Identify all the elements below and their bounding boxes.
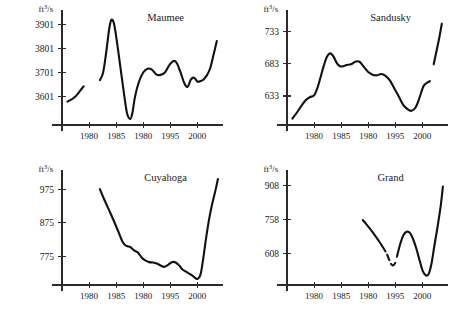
y-tick-label-grand: 908 [265, 181, 280, 191]
panel-title-cuyahoga: Cuyahoga [144, 172, 187, 183]
y-axis-unit-label-grand: ft3/s [264, 163, 279, 174]
x-tick-label-sandusky: 1995 [386, 131, 405, 141]
y-tick-label-maumee: 3801 [35, 44, 54, 54]
chart-svg-sandusky: 63368373319801985198019952000ft3/sSandus… [225, 0, 450, 159]
series-line-maumee [67, 86, 83, 101]
x-tick-label-cuyahoga: 1995 [161, 291, 180, 301]
y-axis-unit-label-cuyahoga: ft3/s [39, 163, 54, 174]
x-tick-label-sandusky: 1980 [359, 131, 378, 141]
x-tick-label-grand: 1995 [386, 291, 405, 301]
y-tick-label-maumee: 3701 [35, 68, 54, 78]
x-tick-label-maumee: 1980 [80, 131, 99, 141]
x-tick-label-maumee: 2000 [188, 131, 207, 141]
x-tick-label-cuyahoga: 1985 [107, 291, 126, 301]
series-line-grand [363, 220, 386, 251]
y-axis-unit-label-sandusky: ft3/s [264, 3, 279, 14]
panel-title-maumee: Maumee [147, 12, 184, 23]
chart-svg-cuyahoga: 77587597519801985198019952000ft3/sCuyaho… [0, 160, 225, 319]
y-tick-label-sandusky: 633 [265, 91, 280, 101]
x-tick-label-maumee: 1985 [107, 131, 126, 141]
chart-svg-maumee: 360137013801390119801985198019952000ft3/… [0, 0, 225, 159]
series-line-grand [397, 186, 443, 275]
chart-panel-grand: 60875890819801985198019952000ft3/sGrand [225, 160, 450, 319]
y-tick-label-maumee: 3601 [35, 92, 54, 102]
x-tick-label-sandusky: 2000 [413, 131, 432, 141]
series-line-cuyahoga [100, 179, 218, 279]
y-tick-label-cuyahoga: 775 [40, 252, 55, 262]
chart-panel-maumee: 360137013801390119801985198019952000ft3/… [0, 0, 225, 159]
x-tick-label-grand: 2000 [413, 291, 432, 301]
panel-title-grand: Grand [377, 172, 404, 183]
x-tick-label-grand: 1985 [332, 291, 351, 301]
y-tick-label-cuyahoga: 875 [40, 218, 55, 228]
y-axis-unit-label-maumee: ft3/s [39, 3, 54, 14]
series-line-grand [391, 263, 395, 266]
series-line-maumee [100, 20, 217, 119]
x-tick-label-sandusky: 1985 [332, 131, 351, 141]
series-line-sandusky [434, 24, 442, 65]
y-tick-label-maumee: 3901 [35, 20, 54, 30]
chart-svg-grand: 60875890819801985198019952000ft3/sGrand [225, 160, 450, 319]
x-tick-label-cuyahoga: 2000 [188, 291, 207, 301]
panel-title-sandusky: Sandusky [370, 12, 412, 23]
x-tick-label-maumee: 1980 [134, 131, 153, 141]
x-tick-label-grand: 1980 [359, 291, 378, 301]
y-tick-label-sandusky: 683 [265, 59, 280, 69]
x-tick-label-maumee: 1995 [161, 131, 180, 141]
x-tick-label-grand: 1980 [305, 291, 324, 301]
x-tick-label-sandusky: 1980 [305, 131, 324, 141]
y-tick-label-sandusky: 733 [265, 27, 280, 37]
series-line-grand [387, 255, 389, 260]
x-tick-label-cuyahoga: 1980 [134, 291, 153, 301]
y-tick-label-cuyahoga: 975 [40, 185, 55, 195]
x-tick-label-cuyahoga: 1980 [80, 291, 99, 301]
streamflow-figure: 360137013801390119801985198019952000ft3/… [0, 0, 450, 319]
chart-panel-cuyahoga: 77587597519801985198019952000ft3/sCuyaho… [0, 160, 225, 319]
y-tick-label-grand: 758 [265, 215, 280, 225]
chart-panel-sandusky: 63368373319801985198019952000ft3/sSandus… [225, 0, 450, 159]
series-line-sandusky [292, 53, 430, 118]
y-tick-label-grand: 608 [265, 249, 280, 259]
